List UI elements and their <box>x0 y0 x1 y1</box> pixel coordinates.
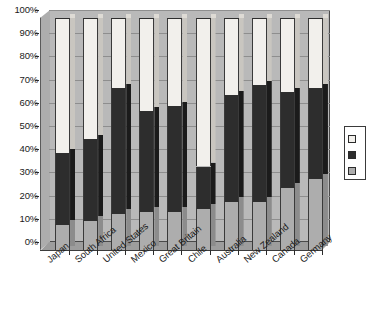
bar-segment-black[interactable] <box>83 139 98 220</box>
bar-group[interactable] <box>252 18 267 250</box>
bar-segment-white[interactable] <box>111 18 126 88</box>
y-axis-tick-mark <box>35 172 39 173</box>
y-axis-tick-mark <box>35 126 39 127</box>
y-axis-tick-mark <box>35 219 39 220</box>
bar-top-cap <box>98 14 103 18</box>
x-axis-labels: JapanSouth AfricaUnited StatesMexicoGrea… <box>0 255 356 314</box>
bar-segment-white[interactable] <box>167 18 182 106</box>
bar-side-segment <box>98 135 103 216</box>
legend-swatch-white <box>348 135 356 143</box>
bar-group[interactable] <box>167 18 182 250</box>
bar-segment-black[interactable] <box>224 95 239 202</box>
bar-segment-black[interactable] <box>139 111 154 211</box>
y-axis-tick-label: 80% <box>4 51 38 61</box>
y-axis-tick-mark <box>35 149 39 150</box>
bar-side-face <box>211 14 216 246</box>
bar-group[interactable] <box>280 18 295 250</box>
bar-side-face <box>98 14 103 246</box>
bar-side-segment <box>154 107 159 207</box>
bar-side-segment <box>295 14 300 88</box>
bar-group[interactable] <box>111 18 126 250</box>
y-axis-tick-mark <box>35 33 39 34</box>
bar-side-segment <box>70 220 75 246</box>
bar-side-segment <box>211 14 216 162</box>
bar-top-cap <box>126 14 131 18</box>
bar-group[interactable] <box>139 18 154 250</box>
bar-side-segment <box>70 149 75 221</box>
y-axis: 0%10%20%30%40%50%60%70%80%90%100% <box>0 0 38 260</box>
plot-left-wall <box>40 10 50 250</box>
bar-side-segment <box>98 14 103 135</box>
bar-side-face <box>267 14 272 246</box>
gridline <box>49 10 330 11</box>
y-axis-tick-label: 50% <box>4 121 38 131</box>
bar-side-segment <box>182 14 187 102</box>
bar-segment-black[interactable] <box>196 167 211 209</box>
y-axis-tick-mark <box>35 80 39 81</box>
bar-top-cap <box>154 14 159 18</box>
bar-side-face <box>239 14 244 246</box>
bar-side-segment <box>323 14 328 84</box>
bar-side-face <box>154 14 159 246</box>
bar-side-segment <box>295 88 300 183</box>
y-axis-tick-mark <box>35 242 39 243</box>
bar-group[interactable] <box>55 18 70 250</box>
bar-top-cap <box>267 14 272 18</box>
bar-side-segment <box>126 14 131 84</box>
bar-segment-white[interactable] <box>280 18 295 92</box>
bar-segment-black[interactable] <box>280 92 295 187</box>
legend-swatch-black <box>348 151 356 159</box>
y-axis-tick-label: 90% <box>4 28 38 38</box>
chart-legend <box>344 126 366 180</box>
bar-segment-white[interactable] <box>139 18 154 111</box>
bar-side-segment <box>211 163 216 205</box>
bar-segment-black[interactable] <box>111 88 126 213</box>
bar-side-segment <box>154 14 159 107</box>
bar-top-cap <box>70 14 75 18</box>
bar-segment-white[interactable] <box>224 18 239 95</box>
bar-segment-white[interactable] <box>196 18 211 166</box>
bar-side-face <box>182 14 187 246</box>
bar-group[interactable] <box>224 18 239 250</box>
bar-top-cap <box>182 14 187 18</box>
bar-side-segment <box>323 84 328 174</box>
y-axis-tick-label: 100% <box>4 5 38 15</box>
bar-side-segment <box>182 102 187 206</box>
y-axis-tick-label: 30% <box>4 167 38 177</box>
bar-side-segment <box>267 14 272 81</box>
bar-side-segment <box>267 81 272 197</box>
y-axis-tick-mark <box>35 10 39 11</box>
bar-segment-white[interactable] <box>55 18 70 153</box>
bar-segment-white[interactable] <box>252 18 267 85</box>
bar-segment-black[interactable] <box>252 85 267 201</box>
bar-side-face <box>295 14 300 246</box>
bar-side-face <box>70 14 75 246</box>
bar-group[interactable] <box>308 18 323 250</box>
bar-top-cap <box>239 14 244 18</box>
bar-side-segment <box>239 14 244 91</box>
bar-side-segment <box>154 207 159 246</box>
y-axis-tick-mark <box>35 196 39 197</box>
legend-item[interactable] <box>348 163 365 179</box>
bar-segment-black[interactable] <box>167 106 182 210</box>
legend-item[interactable] <box>348 131 365 147</box>
bar-side-face <box>126 14 131 246</box>
bar-group[interactable] <box>83 18 98 250</box>
bar-segment-white[interactable] <box>83 18 98 139</box>
bar-side-segment <box>211 204 216 246</box>
y-axis-tick-mark <box>35 56 39 57</box>
bar-side-face <box>323 14 328 246</box>
bar-group[interactable] <box>196 18 211 250</box>
legend-swatch-gray <box>348 167 356 175</box>
bar-segment-black[interactable] <box>308 88 323 178</box>
bar-top-cap <box>295 14 300 18</box>
y-axis-tick-label: 0% <box>4 237 38 247</box>
bar-segment-black[interactable] <box>55 153 70 225</box>
legend-item[interactable] <box>348 147 365 163</box>
bar-side-segment <box>126 84 131 209</box>
bar-segment-white[interactable] <box>308 18 323 88</box>
bar-side-segment <box>239 91 244 198</box>
y-axis-tick-label: 20% <box>4 191 38 201</box>
y-axis-tick-label: 70% <box>4 75 38 85</box>
